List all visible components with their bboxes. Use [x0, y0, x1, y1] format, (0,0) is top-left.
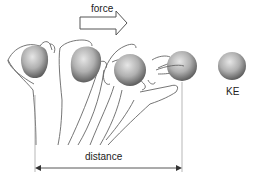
ball-2	[71, 47, 101, 83]
ball-1	[21, 46, 48, 79]
throwing-diagram	[0, 0, 256, 181]
ball-3	[114, 54, 146, 86]
kinetic-energy-label: KE	[226, 87, 239, 97]
ball-released-ke	[218, 52, 246, 80]
force-label: force	[91, 4, 113, 14]
distance-label: distance	[85, 152, 122, 162]
force-arrow-icon	[80, 11, 127, 35]
